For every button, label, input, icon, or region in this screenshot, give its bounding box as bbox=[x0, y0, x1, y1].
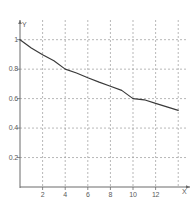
y-tick-label: 0.8 bbox=[0, 65, 18, 73]
x-tick-label: 8 bbox=[103, 191, 117, 199]
x-tick-label: 6 bbox=[81, 191, 95, 199]
y-tick-label: 0.2 bbox=[0, 154, 18, 162]
x-tick-label: 2 bbox=[36, 191, 50, 199]
plot-canvas bbox=[0, 0, 196, 209]
y-axis-label: Y bbox=[22, 21, 27, 29]
x-tick-label: 10 bbox=[126, 191, 140, 199]
chart-background bbox=[0, 0, 196, 209]
chart-figure: 0.20.40.60.81 24681012 Y X bbox=[0, 0, 196, 209]
x-tick-label: 12 bbox=[149, 191, 163, 199]
y-tick-label: 1 bbox=[0, 36, 18, 44]
y-tick-label: 0.6 bbox=[0, 95, 18, 103]
x-axis-label: X bbox=[182, 188, 187, 196]
y-tick-label: 0.4 bbox=[0, 124, 18, 132]
x-tick-label: 4 bbox=[58, 191, 72, 199]
